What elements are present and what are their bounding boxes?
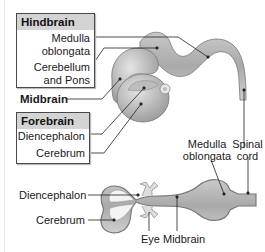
- cerebrum-label: Cerebrum: [36, 147, 85, 160]
- forebrain-box: Forebrain Diencephalon Cerebrum: [16, 112, 90, 164]
- medulla-label-line1: Medulla: [51, 32, 90, 45]
- diencephalon-lower-label: Diencephalon: [19, 189, 86, 202]
- medulla-label-line2: oblongata: [42, 45, 90, 58]
- spinal-cord-line2: cord: [230, 150, 265, 163]
- cerebellum-label-line2: and Pons: [44, 74, 90, 87]
- medulla-lower-line2: oblongata: [177, 150, 237, 163]
- midbrain-label: Midbrain: [20, 93, 68, 106]
- hindbrain-title: Hindbrain: [17, 14, 94, 30]
- diencephalon-label: Diencephalon: [18, 130, 85, 143]
- upper-brain-shape: [112, 32, 246, 122]
- eye-label: Eye: [141, 233, 160, 246]
- forebrain-title: Forebrain: [17, 113, 89, 129]
- lower-brain-section: [101, 180, 256, 233]
- hindbrain-box: Hindbrain Medulla oblongata Cerebellum a…: [16, 13, 95, 88]
- cerebrum-lower-label: Cerebrum: [36, 214, 85, 227]
- cerebellum-label-line1: Cerebellum: [34, 61, 90, 74]
- midbrain-lower-label: Midbrain: [163, 233, 205, 246]
